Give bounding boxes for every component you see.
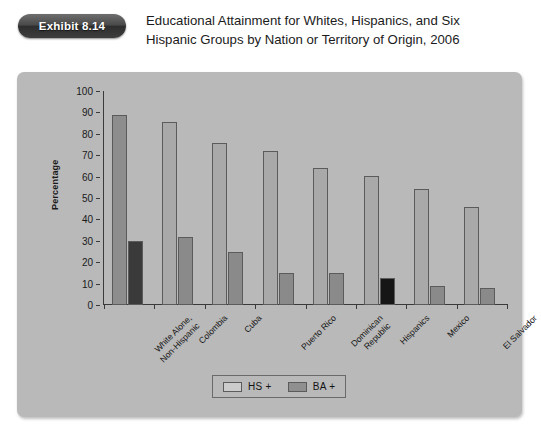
y-axis-tick-mark bbox=[96, 134, 100, 135]
bar-ba bbox=[128, 241, 143, 305]
legend-entry-hs: HS + bbox=[223, 381, 272, 392]
bar-ba bbox=[228, 252, 243, 306]
y-axis-tick-label: 20 bbox=[82, 257, 93, 268]
x-axis-tick-mark bbox=[406, 304, 407, 309]
y-axis-tick-label: 80 bbox=[82, 128, 93, 139]
y-axis-tick-mark bbox=[96, 112, 100, 113]
bar-group bbox=[406, 91, 456, 305]
legend-entry-ba: BA + bbox=[288, 381, 336, 392]
y-axis-tick-label: 40 bbox=[82, 214, 93, 225]
x-axis-label: El Salvador bbox=[501, 313, 540, 352]
y-axis-tick-label: 90 bbox=[82, 107, 93, 118]
bar-group bbox=[457, 91, 507, 305]
chart-title-line-1: Educational Attainment for Whites, Hispa… bbox=[146, 11, 526, 30]
y-axis-tick-label: 50 bbox=[82, 193, 93, 204]
x-axis-tick-mark bbox=[507, 304, 508, 309]
bar-group bbox=[205, 91, 255, 305]
bar-hs bbox=[263, 151, 278, 305]
bar-hs bbox=[212, 143, 227, 305]
y-axis-tick-label: 100 bbox=[76, 86, 93, 97]
y-axis-tick-label: 60 bbox=[82, 171, 93, 182]
y-axis-ticks: 0102030405060708090100 bbox=[61, 86, 101, 304]
bar-group bbox=[154, 91, 204, 305]
x-axis-label: Colombia bbox=[196, 313, 229, 346]
y-axis-tick-label: 30 bbox=[82, 235, 93, 246]
bar-hs bbox=[112, 115, 127, 305]
bar-ba bbox=[279, 273, 294, 305]
x-axis-label: Dominican Republic bbox=[349, 313, 393, 357]
exhibit-header: Exhibit 8.14 Educational Attainment for … bbox=[0, 0, 541, 72]
x-axis-tick-mark bbox=[154, 304, 155, 309]
bar-group bbox=[255, 91, 305, 305]
x-axis-label: Puerto Rico bbox=[299, 313, 338, 352]
bar-hs bbox=[364, 176, 379, 305]
x-axis-tick-mark bbox=[255, 304, 256, 309]
y-axis-tick-label: 10 bbox=[82, 278, 93, 289]
bar-group bbox=[104, 91, 154, 305]
y-axis-tick-mark bbox=[96, 241, 100, 242]
bar-ba bbox=[329, 273, 344, 305]
y-axis-tick-mark bbox=[96, 284, 100, 285]
x-axis-tick-mark bbox=[306, 304, 307, 309]
chart-panel: Percentage 0102030405060708090100 HS + B… bbox=[17, 72, 522, 417]
x-axis-label: Mexico bbox=[445, 313, 472, 340]
y-axis-tick-mark bbox=[96, 305, 100, 306]
bar-hs bbox=[162, 122, 177, 305]
legend-label-ba: BA + bbox=[313, 381, 336, 392]
x-axis-tick-mark bbox=[205, 304, 206, 309]
y-axis-tick-mark bbox=[96, 262, 100, 263]
y-axis-title: Percentage bbox=[50, 159, 60, 210]
y-axis-tick-mark bbox=[96, 177, 100, 178]
y-axis-tick-label: 70 bbox=[82, 150, 93, 161]
x-axis-label: Cuba bbox=[242, 313, 264, 335]
bar-ba bbox=[178, 237, 193, 305]
x-axis-tick-mark bbox=[356, 304, 357, 309]
plot-wrapper: Percentage 0102030405060708090100 HS + B… bbox=[17, 72, 522, 417]
y-axis-tick-mark bbox=[96, 155, 100, 156]
bar-hs bbox=[414, 189, 429, 305]
y-axis-tick-mark bbox=[96, 91, 100, 92]
plot-area bbox=[104, 91, 507, 305]
bar-group bbox=[306, 91, 356, 305]
bar-ba bbox=[480, 288, 495, 305]
bar-group bbox=[356, 91, 406, 305]
chart-legend: HS + BA + bbox=[212, 375, 346, 398]
legend-swatch-ba-icon bbox=[288, 382, 307, 392]
y-axis-tick-mark bbox=[96, 219, 100, 220]
x-axis-label: White Alone, Non-Hispanic bbox=[150, 313, 201, 364]
legend-swatch-hs-icon bbox=[223, 382, 242, 392]
bar-ba bbox=[430, 286, 445, 305]
legend-label-hs: HS + bbox=[248, 381, 272, 392]
x-axis-tick-mark bbox=[104, 304, 105, 309]
bar-hs bbox=[313, 168, 328, 305]
chart-title: Educational Attainment for Whites, Hispa… bbox=[146, 11, 526, 49]
chart-title-line-2: Hispanic Groups by Nation or Territory o… bbox=[146, 30, 526, 49]
bar-ba bbox=[380, 278, 395, 305]
y-axis-tick-mark bbox=[96, 198, 100, 199]
bar-hs bbox=[464, 207, 479, 305]
x-axis-tick-mark bbox=[457, 304, 458, 309]
y-axis-tick-label: 0 bbox=[87, 300, 93, 311]
x-axis-label: Hispanics bbox=[398, 313, 432, 347]
exhibit-badge: Exhibit 8.14 bbox=[18, 14, 126, 38]
